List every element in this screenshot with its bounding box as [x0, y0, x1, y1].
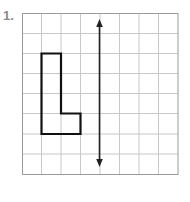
reflection-grid-figure — [0, 0, 190, 202]
arrow-up-icon — [96, 19, 103, 27]
arrow-down-icon — [96, 159, 103, 167]
